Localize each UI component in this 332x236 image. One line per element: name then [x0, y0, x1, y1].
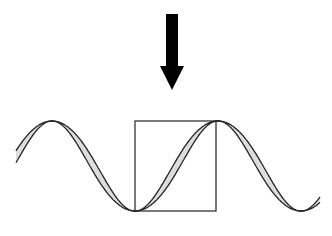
ribbon-wave-diagram — [0, 0, 332, 236]
